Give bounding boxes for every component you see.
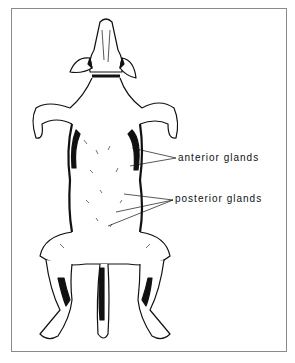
animal-illustration <box>0 0 295 363</box>
label-posterior-glands: posterior glands <box>175 193 262 204</box>
label-anterior-glands: anterior glands <box>178 152 259 163</box>
